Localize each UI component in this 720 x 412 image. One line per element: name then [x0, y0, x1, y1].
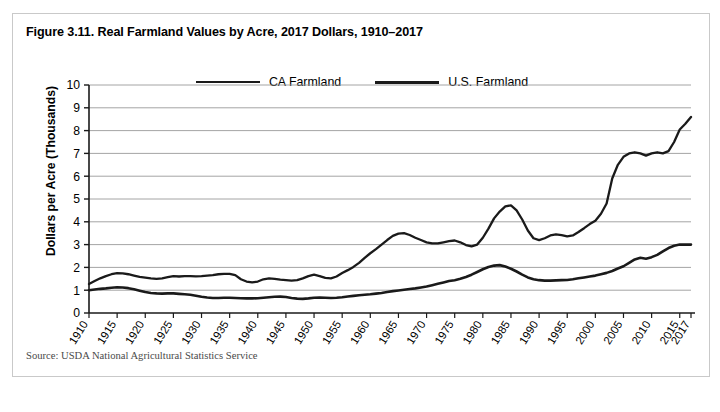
- svg-text:6: 6: [73, 170, 80, 184]
- svg-text:1915: 1915: [95, 319, 119, 347]
- svg-text:4: 4: [73, 215, 80, 229]
- svg-text:1980: 1980: [460, 319, 484, 347]
- figure-card: Figure 3.11. Real Farmland Values by Acr…: [12, 13, 710, 377]
- svg-text:1910: 1910: [67, 319, 91, 347]
- svg-text:8: 8: [73, 124, 80, 138]
- svg-text:1965: 1965: [376, 319, 400, 347]
- svg-text:1985: 1985: [489, 319, 513, 347]
- svg-text:5: 5: [73, 192, 80, 206]
- svg-text:1: 1: [73, 284, 80, 298]
- svg-text:1990: 1990: [517, 319, 541, 347]
- svg-text:10: 10: [66, 78, 80, 92]
- svg-text:1995: 1995: [545, 319, 569, 347]
- svg-text:3: 3: [73, 238, 80, 252]
- svg-text:1975: 1975: [432, 319, 456, 347]
- svg-text:7: 7: [73, 147, 80, 161]
- svg-text:9: 9: [73, 101, 80, 115]
- svg-text:1940: 1940: [235, 319, 259, 347]
- line-chart-svg: 0123456789101910191519201925193019351940…: [13, 14, 711, 378]
- svg-text:1935: 1935: [207, 319, 231, 347]
- svg-text:1945: 1945: [263, 319, 287, 347]
- svg-text:1970: 1970: [404, 319, 428, 347]
- chart-plot-area: 0123456789101910191519201925193019351940…: [13, 14, 711, 378]
- svg-text:2005: 2005: [601, 319, 625, 347]
- svg-text:1925: 1925: [151, 319, 175, 347]
- svg-text:1950: 1950: [292, 319, 316, 347]
- svg-text:2: 2: [73, 261, 80, 275]
- svg-text:2010: 2010: [629, 319, 653, 347]
- svg-text:1960: 1960: [348, 319, 372, 347]
- svg-text:1920: 1920: [123, 319, 147, 347]
- svg-text:1955: 1955: [320, 319, 344, 347]
- source-caption: Source: USDA National Agricultural Stati…: [26, 350, 258, 361]
- svg-text:1930: 1930: [179, 319, 203, 347]
- svg-text:2000: 2000: [573, 319, 597, 347]
